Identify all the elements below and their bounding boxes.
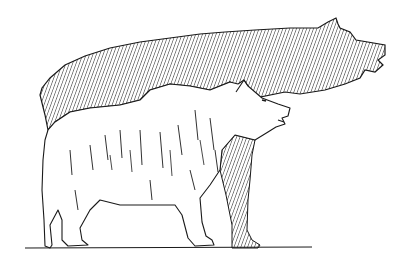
ground-line: [25, 247, 312, 248]
bear-comparison-figure: [0, 0, 411, 270]
bear-illustration: [0, 0, 411, 270]
